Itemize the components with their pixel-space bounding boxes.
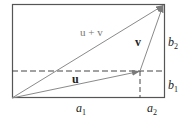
label-a2: a2 bbox=[147, 102, 157, 117]
vector-diagram bbox=[0, 0, 185, 117]
label-u-plus-v: u + v bbox=[80, 27, 103, 38]
label-u: u bbox=[72, 73, 79, 85]
label-b1: b1 bbox=[168, 79, 178, 94]
vector-v-arrow bbox=[140, 6, 163, 72]
vector-sum-arrow bbox=[12, 6, 163, 99]
label-a1: a1 bbox=[76, 102, 86, 117]
label-b2: b2 bbox=[168, 36, 178, 51]
label-v: v bbox=[135, 36, 141, 48]
